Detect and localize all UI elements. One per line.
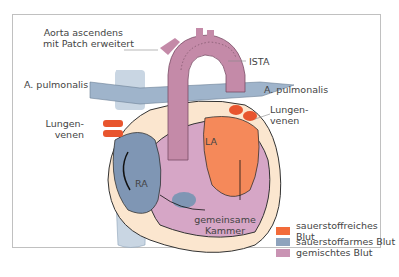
- legend-swatch: [276, 249, 290, 257]
- legend-label: gemischtes Blut: [296, 247, 372, 258]
- legend-swatch: [276, 227, 290, 235]
- legend-item-mixed: gemischtes Blut: [276, 247, 399, 258]
- label-kammer-2: Kammer: [190, 225, 260, 236]
- label-aorta-line2: mit Patch erweitert: [43, 38, 123, 49]
- label-aorta-line1: Aorta ascendens: [43, 27, 123, 38]
- label-kammer-1: gemeinsame: [190, 214, 260, 225]
- legend-item-deoxygenated: sauerstoffarmes Blut: [276, 236, 399, 247]
- label-kammer: gemeinsame Kammer: [190, 214, 260, 236]
- label-lungen-right-1: Lungen-: [270, 104, 309, 115]
- label-pulmonalis-left: A. pulmonalis: [24, 79, 88, 90]
- label-aorta: Aorta ascendens mit Patch erweitert: [43, 27, 123, 49]
- label-lungen-left-2: venen: [44, 129, 84, 140]
- legend-item-oxygenated: sauerstoffreiches Blut: [276, 225, 399, 236]
- label-la: LA: [205, 136, 217, 147]
- left-atrium: [204, 117, 259, 197]
- legend-label: sauerstoffarmes Blut: [296, 236, 395, 247]
- legend-swatch: [276, 238, 290, 246]
- label-ra: RA: [135, 178, 148, 189]
- label-lungen-left-1: Lungen-: [44, 118, 84, 129]
- label-lungenvenen-right: Lungen- venen: [270, 104, 309, 126]
- legend: sauerstoffreiches Blut sauerstoffarmes B…: [276, 225, 399, 258]
- label-lungenvenen-left: Lungen- venen: [44, 118, 84, 140]
- label-ista: ISTA: [249, 56, 269, 67]
- label-lungen-right-2: venen: [270, 115, 309, 126]
- label-pulmonalis-right: A. pulmonalis: [264, 84, 328, 95]
